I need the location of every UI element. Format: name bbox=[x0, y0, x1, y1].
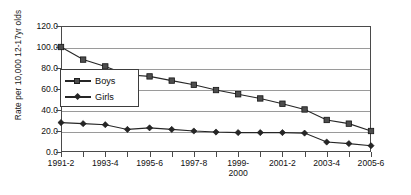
data-point-diamond bbox=[102, 122, 108, 128]
x-axis-tick-mark bbox=[282, 152, 283, 157]
x-axis-tick-mark bbox=[105, 152, 106, 157]
x-axis-tick-mark bbox=[371, 152, 372, 157]
data-point-square bbox=[169, 78, 174, 83]
data-point-diamond bbox=[124, 126, 130, 132]
data-point-square bbox=[324, 117, 329, 122]
x-axis-tick-mark bbox=[305, 152, 306, 157]
x-axis-tick-mark bbox=[172, 152, 173, 157]
data-point-diamond bbox=[257, 129, 263, 135]
data-point-square bbox=[346, 121, 351, 126]
x-axis-tick-mark bbox=[349, 152, 350, 157]
data-point-diamond bbox=[80, 121, 86, 127]
x-axis-tick-mark bbox=[238, 152, 239, 157]
x-axis-tick-mark bbox=[260, 152, 261, 157]
data-point-diamond bbox=[324, 139, 330, 145]
x-axis-tick-mark bbox=[127, 152, 128, 157]
x-axis-tick-mark bbox=[83, 152, 84, 157]
series-girls bbox=[58, 120, 374, 149]
data-point-diamond bbox=[169, 126, 175, 132]
data-point-square bbox=[258, 96, 263, 101]
data-point-diamond bbox=[235, 129, 241, 135]
legend-item-boys: Boys bbox=[61, 73, 138, 89]
y-axis-tick-label: 20.0 bbox=[14, 127, 58, 136]
legend-item-girls: Girls bbox=[61, 89, 138, 105]
y-axis-tick-label: 60.0 bbox=[14, 85, 58, 94]
data-point-square bbox=[147, 74, 152, 79]
y-axis-tick-label: 120.0 bbox=[14, 22, 58, 31]
square-marker-icon bbox=[65, 76, 91, 86]
x-axis-tick-mark bbox=[61, 152, 62, 157]
data-point-square bbox=[191, 82, 196, 87]
y-axis-tick-label: 0.0 bbox=[14, 148, 58, 157]
data-point-square bbox=[80, 57, 85, 62]
y-axis-tick-label: 80.0 bbox=[14, 64, 58, 73]
data-point-diamond bbox=[146, 125, 152, 131]
data-point-diamond bbox=[58, 120, 64, 126]
data-point-square bbox=[302, 107, 307, 112]
x-axis-tick-label: 2005-6 bbox=[341, 159, 401, 169]
data-point-square bbox=[280, 101, 285, 106]
data-point-square bbox=[58, 44, 63, 49]
data-point-diamond bbox=[191, 128, 197, 134]
data-point-square bbox=[235, 92, 240, 97]
data-point-square bbox=[368, 128, 373, 133]
chart-legend: Boys Girls bbox=[60, 69, 139, 107]
line-chart-figure: Rate per 10,000 12-17yr olds 120.0100.08… bbox=[0, 0, 411, 195]
data-point-diamond bbox=[301, 130, 307, 136]
x-axis-tick-mark bbox=[150, 152, 151, 157]
legend-label-girls: Girls bbox=[95, 92, 114, 102]
x-axis-tick-mark bbox=[194, 152, 195, 157]
diamond-marker-icon bbox=[65, 92, 91, 102]
y-axis-tick-label: 40.0 bbox=[14, 106, 58, 115]
x-axis-tick-mark bbox=[216, 152, 217, 157]
data-point-square bbox=[213, 87, 218, 92]
data-point-diamond bbox=[346, 141, 352, 147]
data-point-diamond bbox=[368, 143, 374, 149]
x-axis-tick-mark bbox=[327, 152, 328, 157]
data-point-diamond bbox=[213, 129, 219, 135]
y-axis-tick-label: 100.0 bbox=[14, 43, 58, 52]
legend-label-boys: Boys bbox=[95, 76, 115, 86]
data-point-diamond bbox=[279, 129, 285, 135]
